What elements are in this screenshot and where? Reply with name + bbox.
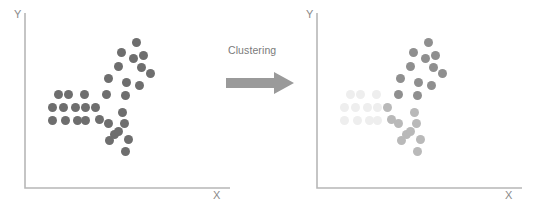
axes-before (0, 0, 267, 217)
data-point (118, 108, 127, 117)
data-point (424, 38, 433, 47)
data-point (416, 135, 425, 144)
transform-label: Clustering (228, 44, 276, 56)
data-point (114, 127, 123, 136)
y-axis-label-after: Y (306, 9, 313, 20)
data-point (48, 103, 57, 112)
data-point (137, 63, 146, 72)
data-point (48, 116, 57, 125)
data-point (363, 103, 372, 112)
data-point (340, 103, 349, 112)
transform-arrow-group: Clustering (222, 44, 296, 98)
data-point (114, 62, 123, 71)
data-point (356, 90, 365, 99)
data-point (413, 91, 422, 100)
data-point (95, 115, 104, 124)
data-point (406, 62, 415, 71)
data-point (414, 78, 423, 87)
data-point (429, 63, 438, 72)
data-point (394, 119, 403, 128)
x-axis-label-before: X (213, 190, 220, 201)
data-point (412, 119, 421, 128)
data-point (394, 90, 403, 99)
data-point (351, 103, 360, 112)
data-point (135, 81, 144, 90)
data-point (373, 103, 382, 112)
x-axis-label-after: X (505, 190, 512, 201)
data-point (346, 90, 355, 99)
data-point (129, 54, 138, 63)
data-point (71, 103, 80, 112)
data-point (122, 78, 131, 87)
data-point (121, 147, 130, 156)
data-point (373, 116, 382, 125)
data-point (396, 74, 405, 83)
right-block-arrow-icon (226, 72, 294, 94)
data-point (372, 90, 381, 99)
data-point (132, 38, 141, 47)
data-point (353, 116, 362, 125)
data-point (81, 116, 90, 125)
data-point (409, 48, 418, 57)
data-point (120, 119, 129, 128)
data-point (64, 90, 73, 99)
data-point (117, 48, 126, 57)
data-point (431, 51, 440, 60)
data-point (121, 91, 130, 100)
data-point (104, 74, 113, 83)
data-point (102, 90, 111, 99)
unclustered-scatter-plot: Y X (0, 0, 267, 217)
data-point (383, 103, 392, 112)
y-axis-label-before: Y (14, 9, 21, 20)
data-point (81, 103, 90, 112)
data-point (438, 69, 447, 78)
data-point (104, 119, 113, 128)
data-point (105, 136, 114, 145)
data-point (124, 135, 133, 144)
data-point (406, 127, 415, 136)
data-point (413, 147, 422, 156)
clustered-scatter-plot: Y X (292, 0, 535, 217)
data-point (61, 116, 70, 125)
data-point (54, 90, 63, 99)
data-point (146, 69, 155, 78)
data-point (59, 103, 68, 112)
data-point (410, 108, 419, 117)
data-point (421, 54, 430, 63)
data-point (340, 116, 349, 125)
data-point (139, 51, 148, 60)
data-point (397, 136, 406, 145)
data-point (80, 90, 89, 99)
data-point (91, 103, 100, 112)
data-point (427, 81, 436, 90)
clustering-diagram: Y X Clustering Y X (0, 0, 535, 217)
